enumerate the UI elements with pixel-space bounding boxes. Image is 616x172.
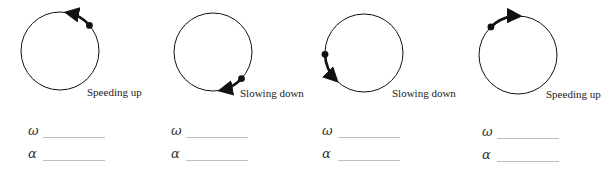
panel-2-caption: Slowing down [240, 87, 304, 99]
panel-2-figure [174, 13, 252, 91]
omega-symbol: ω [322, 123, 333, 138]
panel-4-figure [479, 16, 557, 94]
particle-dot-icon [322, 51, 329, 58]
alpha-symbol: α [322, 146, 331, 161]
panel-1-caption: Speeding up [87, 86, 142, 98]
circle-path [325, 14, 403, 92]
particle-dot-icon [488, 24, 495, 31]
panel-1-figure [21, 12, 99, 90]
particle-dot-icon [86, 22, 93, 29]
panel-2-alpha-answer-blank[interactable] [186, 160, 248, 161]
motion-arrow-icon [491, 16, 519, 27]
panel-3-alpha-answer-blank[interactable] [338, 160, 400, 161]
panel-3-figure [322, 14, 403, 92]
motion-arrow-icon [220, 79, 241, 91]
panel-1-alpha-answer-blank[interactable] [43, 160, 105, 161]
rotation-worksheet: Speeding up ω α Slowing down ω α Slowing… [0, 0, 616, 172]
alpha-symbol: α [28, 146, 37, 161]
panel-3-caption: Slowing down [392, 87, 456, 99]
omega-symbol: ω [482, 124, 493, 139]
panel-4-caption: Speeding up [546, 88, 601, 100]
omega-symbol: ω [28, 123, 39, 138]
omega-symbol: ω [171, 123, 182, 138]
alpha-symbol: α [482, 147, 491, 162]
panel-4-omega-answer-blank[interactable] [497, 138, 559, 139]
motion-arrow-icon [325, 54, 336, 80]
panel-1-omega-answer-blank[interactable] [43, 137, 105, 138]
panel-2-omega-answer-blank[interactable] [186, 137, 248, 138]
motion-arrow-icon [67, 13, 90, 26]
panel-4-alpha-answer-blank[interactable] [497, 161, 559, 162]
alpha-symbol: α [171, 146, 180, 161]
particle-dot-icon [238, 75, 245, 82]
panel-3-omega-answer-blank[interactable] [338, 137, 400, 138]
